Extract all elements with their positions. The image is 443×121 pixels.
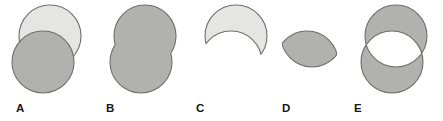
panel-e-shape [348,0,443,121]
panel-label-d: D [282,102,290,114]
panel-label-c: C [196,102,204,114]
panel-a-shape [0,0,100,121]
panel-c-shape [190,0,290,121]
panel-a [0,0,100,121]
lower-left-circle [12,31,74,93]
symmetric-difference-shape [348,0,443,121]
panel-e [348,0,443,121]
panel-label-e: E [354,102,362,114]
intersection-shape [276,5,343,93]
set-operations-figure: ABCDE [0,0,443,121]
panel-label-a: A [16,102,24,114]
difference-shape [190,0,290,121]
panel-c [190,0,290,121]
panel-label-b: B [106,102,114,114]
